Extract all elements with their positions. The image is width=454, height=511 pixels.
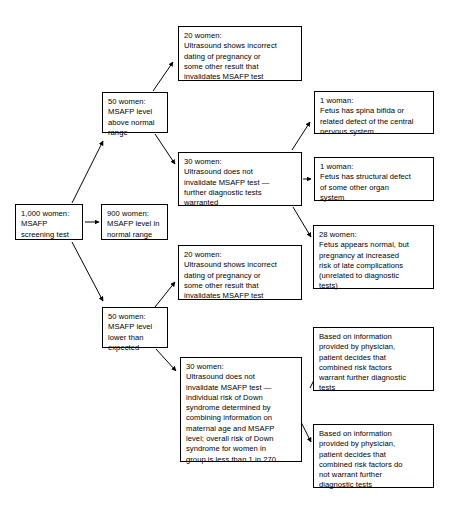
node-screening-test: 1,000 women: MSAFP screening test xyxy=(15,204,83,240)
node-structural-defect: 1 woman: Fetus has structural defect of … xyxy=(314,157,434,201)
edge-valid-to-late-complications xyxy=(293,207,311,237)
flowchart-diagram: 20 women: Ultrasound shows incorrect dat… xyxy=(0,0,454,511)
node-decision-not-warrant-tests: Based on information provided by physici… xyxy=(313,424,434,488)
edge-high-to-ultrasound-valid xyxy=(155,134,175,164)
node-decision-warrant-tests: Based on information provided by physici… xyxy=(313,327,434,391)
node-spina-bifida: 1 woman: Fetus has spina bifida or relat… xyxy=(314,91,434,134)
node-ultrasound-high-invalid: 20 women: Ultrasound shows incorrect dat… xyxy=(178,26,302,81)
node-high-msafp-level: 50 women: MSAFP level above normal range xyxy=(102,92,168,133)
edge-low-to-ultrasound-invalid xyxy=(155,282,175,307)
edge-screening-to-low xyxy=(72,242,103,301)
node-ultrasound-high-valid: 30 women: Ultrasound does not invalidate… xyxy=(178,152,302,206)
node-normal-msafp-level: 900 women: MSAFP level in normal range xyxy=(101,204,168,240)
edge-screening-to-high xyxy=(72,141,103,203)
node-ultrasound-low-valid: 30 women: Ultrasound does not invalidate… xyxy=(180,357,302,462)
edge-high-to-ultrasound-invalid xyxy=(153,62,173,91)
edge-low-to-ultrasound-valid xyxy=(156,349,176,371)
node-low-msafp-level: 50 women: MSAFP level lower than expecte… xyxy=(102,307,168,348)
node-late-complications: 28 women: Fetus appears normal, but preg… xyxy=(313,225,434,289)
edge-valid-to-spina-bifida xyxy=(292,122,310,150)
node-ultrasound-low-invalid: 20 women: Ultrasound shows incorrect dat… xyxy=(178,245,302,300)
